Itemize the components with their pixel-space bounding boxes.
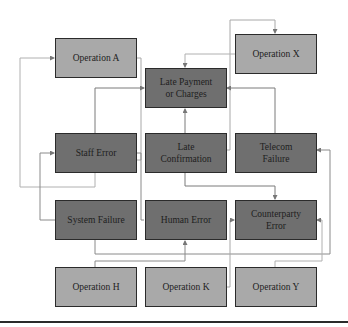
node-staff-error: Staff Error [55,133,137,173]
node-operation-h: Operation H [55,267,137,307]
edge-late-confirmation-to-counterparty [185,173,275,199]
risk-cause-diagram: Operation A Operation X Late Payment or … [0,0,348,327]
node-label: Human Error [161,214,211,226]
node-label-line1: Late Payment [160,76,213,88]
node-late-payment-or-charges: Late Payment or Charges [145,68,227,108]
bottom-divider [0,321,348,323]
node-human-error: Human Error [145,200,227,240]
node-label-line1: Telecom [260,141,293,153]
node-label: Operation Y [253,281,300,293]
node-label: Operation A [73,52,120,64]
node-telecom-failure: Telecom Failure [235,133,317,173]
node-label-line1: Late [178,141,195,153]
node-operation-k: Operation K [145,267,227,307]
node-label: System Failure [67,214,124,226]
node-label-line2: Error [266,220,286,232]
node-counterparty-error: Counterparty Error [235,200,317,240]
edge-staff-error-to-late-payment [95,88,144,133]
node-operation-a: Operation A [55,38,137,78]
node-operation-y: Operation Y [235,267,317,307]
node-label: Operation X [252,48,299,60]
node-late-confirmation: Late Confirmation [145,133,227,173]
edge-operation-x-to-late-payment [185,54,235,67]
edge-staff-error-to-human-error [136,153,144,220]
node-label-line2: or Charges [165,88,206,100]
node-label: Staff Error [76,147,117,159]
node-label: Operation H [72,281,119,293]
node-label-line2: Failure [263,153,290,165]
edge-telecom-failure-to-late-payment [227,88,275,133]
node-label: Operation K [162,281,209,293]
node-operation-x: Operation X [235,34,317,74]
node-system-failure: System Failure [55,200,137,240]
node-label-line2: Confirmation [160,153,211,165]
node-label-line1: Counterparty [251,208,301,220]
